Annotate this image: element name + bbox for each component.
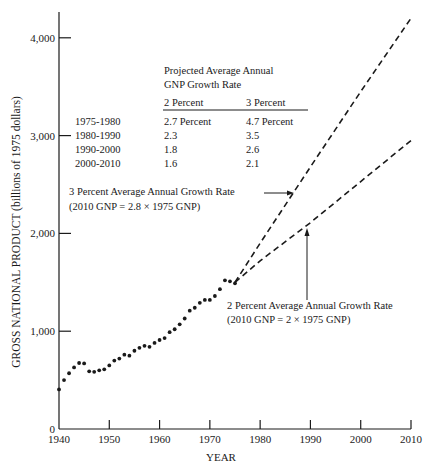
x-ticks: 19401950196019701980199020002010 bbox=[48, 420, 423, 445]
data-point bbox=[188, 309, 192, 313]
annotation-3pct-line2: (2010 GNP = 2.8 × 1975 GNP) bbox=[69, 201, 201, 213]
data-point bbox=[153, 341, 157, 345]
data-point bbox=[138, 346, 142, 350]
data-point bbox=[143, 344, 147, 348]
data-point bbox=[223, 278, 227, 282]
data-point bbox=[163, 336, 167, 340]
data-point bbox=[168, 330, 172, 334]
y-axis-label: GROSS NATIONAL PRODUCT (billions of 1975… bbox=[10, 96, 23, 368]
data-point bbox=[208, 298, 212, 302]
table-col-2pct: 2 Percent bbox=[164, 97, 203, 108]
data-point bbox=[158, 338, 162, 342]
data-point bbox=[193, 306, 197, 310]
data-point bbox=[97, 368, 101, 372]
x-tick-label: 1990 bbox=[299, 433, 322, 445]
data-point bbox=[67, 371, 71, 375]
data-point bbox=[218, 287, 222, 291]
x-tick-label: 2000 bbox=[350, 433, 373, 445]
table-period: 2000-2010 bbox=[75, 158, 121, 169]
table-col-3pct: 3 Percent bbox=[246, 97, 285, 108]
x-tick-label: 1980 bbox=[249, 433, 272, 445]
data-point bbox=[228, 279, 232, 283]
y-tick-label: 3,000 bbox=[30, 130, 55, 142]
y-tick-label: 4,000 bbox=[30, 32, 55, 44]
table-rows: 1975-19802.7 Percent4.7 Percent1980-1990… bbox=[75, 116, 293, 169]
data-point bbox=[198, 301, 202, 305]
data-point bbox=[92, 370, 96, 374]
arrowhead-icon bbox=[305, 228, 310, 236]
x-tick-label: 2010 bbox=[400, 433, 423, 445]
table-value: 2.7 Percent bbox=[164, 116, 211, 127]
x-tick-label: 1940 bbox=[48, 433, 71, 445]
table-value: 1.6 bbox=[164, 158, 177, 169]
table-value: 4.7 Percent bbox=[246, 116, 293, 127]
table-period: 1980-1990 bbox=[75, 130, 121, 141]
x-axis-label: YEAR bbox=[206, 451, 237, 463]
gnp-chart: GROSS NATIONAL PRODUCT (billions of 1975… bbox=[0, 0, 427, 471]
projection-line bbox=[235, 140, 411, 282]
data-point bbox=[213, 294, 217, 298]
y-tick-label: 1,000 bbox=[30, 325, 55, 337]
table-value: 2.1 bbox=[246, 158, 259, 169]
x-tick-label: 1950 bbox=[98, 433, 121, 445]
table-value: 1.8 bbox=[164, 144, 177, 155]
inset-table: Projected Average Annual GNP Growth Rate… bbox=[75, 65, 308, 169]
y-tick-label: 2,000 bbox=[30, 227, 55, 239]
data-point bbox=[203, 298, 207, 302]
table-value: 2.3 bbox=[164, 130, 177, 141]
data-point bbox=[178, 322, 182, 326]
annotation-3pct-line1: 3 Percent Average Annual Growth Rate bbox=[69, 186, 235, 197]
annotation-2pct-line1: 2 Percent Average Annual Growth Rate bbox=[227, 300, 393, 311]
data-point bbox=[112, 359, 116, 363]
data-point bbox=[173, 327, 177, 331]
annotation-2pct: 2 Percent Average Annual Growth Rate (20… bbox=[227, 228, 393, 326]
x-tick-label: 1960 bbox=[149, 433, 172, 445]
data-point bbox=[127, 354, 131, 358]
table-title-1: Projected Average Annual bbox=[164, 65, 274, 76]
projection-line bbox=[235, 18, 411, 282]
data-point bbox=[57, 387, 61, 391]
data-point bbox=[148, 345, 152, 349]
table-period: 1975-1980 bbox=[75, 116, 121, 127]
x-tick-label: 1970 bbox=[199, 433, 222, 445]
table-period: 1990-2000 bbox=[75, 144, 121, 155]
data-point bbox=[183, 317, 187, 321]
data-point bbox=[87, 369, 91, 373]
data-point bbox=[82, 362, 86, 366]
annotation-2pct-line2: (2010 GNP = 2 × 1975 GNP) bbox=[227, 314, 351, 326]
annotation-3pct: 3 Percent Average Annual Growth Rate (20… bbox=[69, 186, 294, 213]
data-point bbox=[72, 365, 76, 369]
table-value: 3.5 bbox=[246, 130, 259, 141]
y-ticks: 01,0002,0003,0004,000 bbox=[30, 32, 71, 435]
data-point bbox=[107, 364, 111, 368]
table-title-2: GNP Growth Rate bbox=[164, 79, 242, 90]
data-point bbox=[117, 357, 121, 361]
data-point bbox=[77, 361, 81, 365]
data-point bbox=[62, 378, 66, 382]
data-point bbox=[133, 349, 137, 353]
data-point bbox=[102, 367, 106, 371]
data-point bbox=[122, 353, 126, 357]
table-value: 2.6 bbox=[246, 144, 259, 155]
